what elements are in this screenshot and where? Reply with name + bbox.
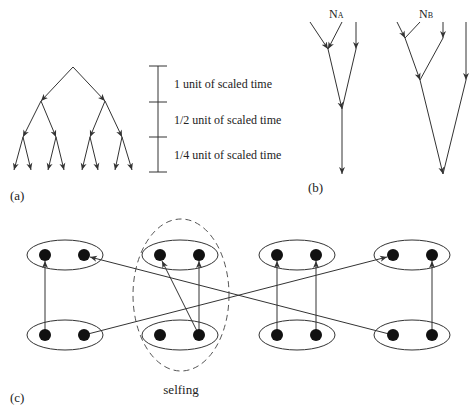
scale-label-1: 1 unit of scaled time — [174, 77, 272, 91]
panel-b-label: (b) — [308, 180, 323, 195]
individual-top-2 — [142, 240, 218, 270]
node-nb-label: NB — [419, 7, 433, 21]
individual-top-1 — [27, 240, 103, 270]
scale-label-3: 1/4 unit of scaled time — [174, 148, 281, 162]
individual-bottom-1 — [27, 320, 103, 350]
selfing-boundary — [133, 219, 229, 371]
node-na-label: NA — [329, 7, 344, 21]
panel-b-genealogy-b — [397, 22, 466, 174]
scale-label-2: 1/2 unit of scaled time — [174, 113, 281, 127]
individual-top-4 — [374, 240, 450, 270]
diagram-canvas: 1 unit of scaled time 1/2 unit of scaled… — [0, 0, 471, 417]
individual-bottom-3 — [259, 320, 335, 350]
individual-bottom-4 — [374, 320, 450, 350]
panel-b-genealogy-a — [310, 22, 356, 174]
individual-top-3 — [259, 240, 335, 270]
panel-c-inheritance-arrows — [45, 257, 432, 335]
panel-c-label: (c) — [10, 390, 24, 405]
panel-a-scale-bar — [149, 66, 167, 172]
panel-a-label: (a) — [10, 188, 24, 203]
selfing-label: selfing — [163, 382, 199, 397]
individual-bottom-2 — [142, 320, 218, 350]
panel-a-tree — [14, 67, 132, 170]
